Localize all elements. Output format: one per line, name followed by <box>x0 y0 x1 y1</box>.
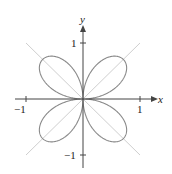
y-axis-arrow-icon <box>80 25 86 32</box>
y-tick-label-pos1: 1 <box>71 37 77 49</box>
x-axis-arrow-icon <box>151 96 158 102</box>
y-axis-label: y <box>79 13 85 25</box>
y-tick-label-neg1: −1 <box>64 149 76 161</box>
polar-rose-chart: −1 1 1 −1 x y <box>0 0 172 174</box>
x-tick-label-neg1: −1 <box>14 103 26 115</box>
x-tick-label-pos1: 1 <box>137 103 143 115</box>
x-axis-label: x <box>157 93 163 105</box>
